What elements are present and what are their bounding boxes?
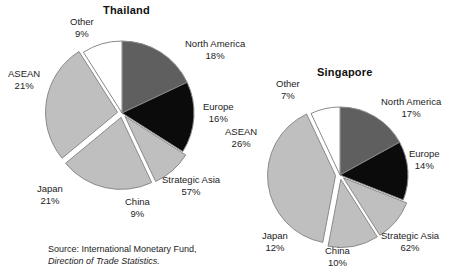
slice-label-percent: 18% bbox=[185, 50, 245, 62]
slice-label-name: Europe bbox=[409, 148, 440, 159]
slice-label-percent: 57% bbox=[162, 186, 220, 198]
slice-label-thailand-europe: Europe16% bbox=[203, 101, 234, 124]
slice-label-percent: 9% bbox=[70, 28, 94, 40]
slice-label-name: Strategic Asia bbox=[162, 174, 220, 185]
slice-label-thailand-asean: ASEAN21% bbox=[8, 68, 40, 91]
pie-singapore bbox=[268, 107, 408, 247]
slice-label-thailand-china: China9% bbox=[125, 196, 150, 219]
slice-label-percent: 17% bbox=[381, 108, 441, 120]
slice-label-percent: 26% bbox=[225, 138, 257, 150]
slice-label-name: North America bbox=[381, 96, 441, 107]
slice-label-percent: 62% bbox=[381, 242, 439, 254]
source-line-2: Direction of Trade Statistics. bbox=[48, 255, 197, 267]
slice-label-singapore-china: China10% bbox=[325, 245, 350, 268]
slice-label-percent: 9% bbox=[125, 208, 150, 220]
pie-thailand bbox=[46, 41, 194, 189]
slice-label-name: China bbox=[325, 245, 350, 256]
slice-label-name: Japan bbox=[37, 183, 63, 194]
source-note: Source: International Monetary Fund, Dir… bbox=[48, 243, 197, 267]
slice-label-name: Other bbox=[70, 16, 94, 27]
slice-label-singapore-asean: ASEAN26% bbox=[225, 126, 257, 149]
slice-label-percent: 14% bbox=[409, 160, 440, 172]
source-line-1: Source: International Monetary Fund, bbox=[48, 243, 197, 255]
chart-title-thailand: Thailand bbox=[103, 4, 150, 16]
slice-label-singapore-europe: Europe14% bbox=[409, 148, 440, 171]
slice-label-name: Other bbox=[276, 78, 300, 89]
slice-label-name: Japan bbox=[262, 230, 288, 241]
slice-label-singapore-strategic-asia: Strategic Asia62% bbox=[381, 230, 439, 253]
slice-label-name: North America bbox=[185, 38, 245, 49]
slice-label-singapore-north-america: North America17% bbox=[381, 96, 441, 119]
slice-label-percent: 16% bbox=[203, 113, 234, 125]
slice-label-percent: 7% bbox=[276, 90, 300, 102]
chart-title-singapore: Singapore bbox=[317, 66, 373, 78]
slice-label-singapore-other: Other7% bbox=[276, 78, 300, 101]
figure-canvas: Thailand Singapore North America18%Europ… bbox=[0, 0, 458, 278]
slice-label-name: ASEAN bbox=[8, 68, 40, 79]
slice-label-name: China bbox=[125, 196, 150, 207]
slice-label-percent: 21% bbox=[37, 195, 63, 207]
slice-label-percent: 21% bbox=[8, 80, 40, 92]
slice-label-name: Strategic Asia bbox=[381, 230, 439, 241]
slice-label-thailand-north-america: North America18% bbox=[185, 38, 245, 61]
slice-label-thailand-strategic-asia: Strategic Asia57% bbox=[162, 174, 220, 197]
slice-label-percent: 10% bbox=[325, 257, 350, 269]
slice-label-percent: 12% bbox=[262, 242, 288, 254]
slice-label-thailand-japan: Japan21% bbox=[37, 183, 63, 206]
slice-label-singapore-japan: Japan12% bbox=[262, 230, 288, 253]
slice-label-name: ASEAN bbox=[225, 126, 257, 137]
slice-label-name: Europe bbox=[203, 101, 234, 112]
slice-label-thailand-other: Other9% bbox=[70, 16, 94, 39]
